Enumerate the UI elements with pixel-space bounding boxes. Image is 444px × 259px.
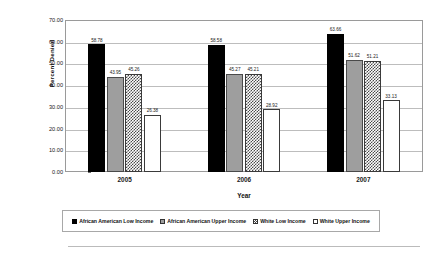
legend-label: White Low Income [260,218,306,224]
y-axis-tick-label: 30.00 [29,104,63,110]
bar-value-label: 63.66 [330,27,342,32]
y-axis-tick-label: 60.00 [29,39,63,45]
bar-value-label: 43.95 [110,70,122,75]
y-axis-tick-label: 0.00 [29,169,63,175]
bar[interactable] [383,100,400,172]
bar[interactable] [88,44,105,172]
legend-swatch-icon [72,219,77,224]
chart-legend: African American Low IncomeAfrican Ameri… [62,210,380,232]
bar-group: 58.7843.9545.2626.38 [65,20,184,172]
legend-label: White Upper Income [320,218,370,224]
bar-value-label: 45.21 [247,67,259,72]
bar[interactable] [263,109,280,172]
legend-swatch-icon [160,219,165,224]
bar-value-label: 45.27 [229,67,241,72]
bar-chart-figure: Percent Denied 0.0010.0020.0030.0040.005… [0,0,444,259]
y-axis-tick-label: 70.00 [29,17,63,23]
x-axis-tick-label: 2007 [356,176,370,183]
y-axis-tick-labels: 0.0010.0020.0030.0040.0050.0060.0070.00 [25,20,63,172]
caption-divider [68,246,420,247]
legend-item[interactable]: White Upper Income [313,218,370,224]
bar-value-label: 45.26 [128,67,140,72]
y-axis-tick-label: 10.00 [29,147,63,153]
bars-layer: 58.7843.9545.2626.3858.5845.2745.2128.92… [65,20,423,172]
bar-value-label: 26.38 [147,108,159,113]
legend-item[interactable]: White Low Income [253,218,306,224]
bar-value-label: 51.21 [367,54,379,59]
bar-group: 63.6651.6251.2133.13 [304,20,423,172]
bar[interactable] [208,45,225,172]
bar-value-label: 58.78 [91,38,103,43]
bar[interactable] [364,61,381,172]
legend-swatch-icon [253,219,258,224]
x-axis-tick-label: 2006 [237,176,251,183]
bar[interactable] [327,34,344,172]
legend-label: African American Upper Income [167,218,246,224]
bar-value-label: 51.62 [348,53,360,58]
y-axis-tick-mark [88,172,91,173]
x-axis-tick-label: 2005 [118,176,132,183]
bar[interactable] [107,77,124,172]
x-axis-title: Year [65,192,423,199]
legend-item[interactable]: African American Low Income [72,218,153,224]
bar-value-label: 28.92 [266,103,278,108]
y-axis-tick-label: 20.00 [29,126,63,132]
bar[interactable] [144,115,161,172]
bar[interactable] [346,60,363,172]
bar[interactable] [226,74,243,172]
y-axis-tick-label: 40.00 [29,82,63,88]
bar-value-label: 58.58 [210,38,222,43]
bar-value-label: 33.13 [385,94,397,99]
y-axis-tick-label: 50.00 [29,60,63,66]
bar-group: 58.5845.2745.2128.92 [184,20,303,172]
legend-label: African American Low Income [79,218,153,224]
legend-item[interactable]: African American Upper Income [160,218,246,224]
bar[interactable] [245,74,262,172]
bar[interactable] [125,74,142,172]
legend-swatch-icon [313,219,318,224]
